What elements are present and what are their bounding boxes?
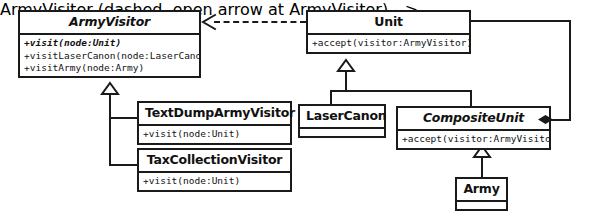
dependency-line-unit-to-armyvisitor [214, 21, 306, 23]
class-name-laser-canon: LaserCanon [300, 106, 384, 127]
class-name-army: Army [457, 179, 506, 200]
composition-line-bottom-segment [550, 119, 571, 121]
class-methods-army-visitor: +visit(node:Unit) +visitLaserCanon(node:… [20, 33, 199, 75]
composition-line-right-segment [569, 20, 571, 121]
method-item: +visitLaserCanon(node:LaserCanon) [24, 50, 196, 62]
dependency-open-arrowhead-icon [200, 12, 216, 32]
class-name-army-visitor: ArmyVisitor [20, 12, 199, 33]
class-name-unit: Unit [308, 12, 469, 33]
generalization-branch-taxcollectionvisitor [109, 164, 139, 166]
method-item: +visitArmy(node:Army) [24, 62, 196, 74]
class-methods-text-dump-army-visitor: +visit(node:Unit) [139, 124, 290, 142]
class-box-army-visitor[interactable]: ArmyVisitor +visit(node:Unit) +visitLase… [18, 10, 201, 78]
class-box-army[interactable]: Army [455, 177, 508, 211]
class-box-composite-unit[interactable]: CompositeUnit +accept(visitor:ArmyVisito… [396, 106, 551, 150]
generalization-drop-lasercanon [330, 90, 332, 104]
generalization-triangle-armyvisitor-icon [101, 82, 119, 95]
class-methods-army [457, 200, 506, 209]
class-methods-tax-collection-visitor: +visit(node:Unit) [139, 171, 290, 189]
class-methods-laser-canon [300, 127, 384, 136]
generalization-stem-compositeunit [481, 156, 483, 178]
method-item: +visit(node:Unit) [24, 37, 196, 49]
class-name-tax-collection-visitor: TaxCollectionVisitor [139, 150, 290, 171]
class-box-unit[interactable]: Unit +accept(visitor:ArmyVisitor) [306, 10, 471, 54]
class-box-text-dump-army-visitor[interactable]: TextDumpArmyVisitor +visit(node:Unit) [137, 101, 292, 145]
class-name-composite-unit: CompositeUnit [398, 108, 549, 129]
class-box-laser-canon[interactable]: LaserCanon [298, 104, 386, 138]
generalization-stem-unit [345, 70, 347, 92]
generalization-triangle-unit-icon [337, 59, 355, 72]
class-box-tax-collection-visitor[interactable]: TaxCollectionVisitor +visit(node:Unit) [137, 148, 292, 192]
method-item: +visit(node:Unit) [143, 175, 287, 187]
generalization-crossbar-unit [330, 90, 472, 92]
method-item: +accept(visitor:ArmyVisitor) [312, 37, 466, 49]
generalization-drop-compositeunit [470, 90, 472, 106]
class-name-text-dump-army-visitor: TextDumpArmyVisitor [139, 103, 290, 124]
method-item: +visit(node:Unit) [143, 128, 287, 140]
generalization-stem-armyvisitor [109, 93, 111, 166]
method-item: +accept(visitor:ArmyVisitor) [402, 133, 546, 145]
generalization-branch-textdumparmyvisitor [109, 117, 139, 119]
uml-class-diagram: ArmyVisitor (dashed, open arrow at ArmyV… [0, 0, 589, 220]
class-methods-composite-unit: +accept(visitor:ArmyVisitor) [398, 129, 549, 147]
class-methods-unit: +accept(visitor:ArmyVisitor) [308, 33, 469, 51]
composition-line-top-segment [470, 20, 571, 22]
